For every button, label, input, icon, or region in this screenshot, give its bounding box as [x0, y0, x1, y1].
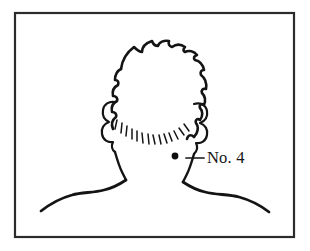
figure-container: No. 4 [0, 0, 310, 251]
hair-outline [121, 41, 206, 139]
neck-left-contour [115, 152, 126, 180]
nape-hairline [115, 120, 189, 144]
acupoint-label: No. 4 [207, 148, 245, 167]
border-frame [15, 13, 294, 237]
anatomical-illustration: No. 4 [0, 0, 310, 251]
left-shoulder [41, 180, 126, 211]
acupoint-marker-dot [172, 153, 179, 160]
right-shoulder [183, 182, 269, 212]
